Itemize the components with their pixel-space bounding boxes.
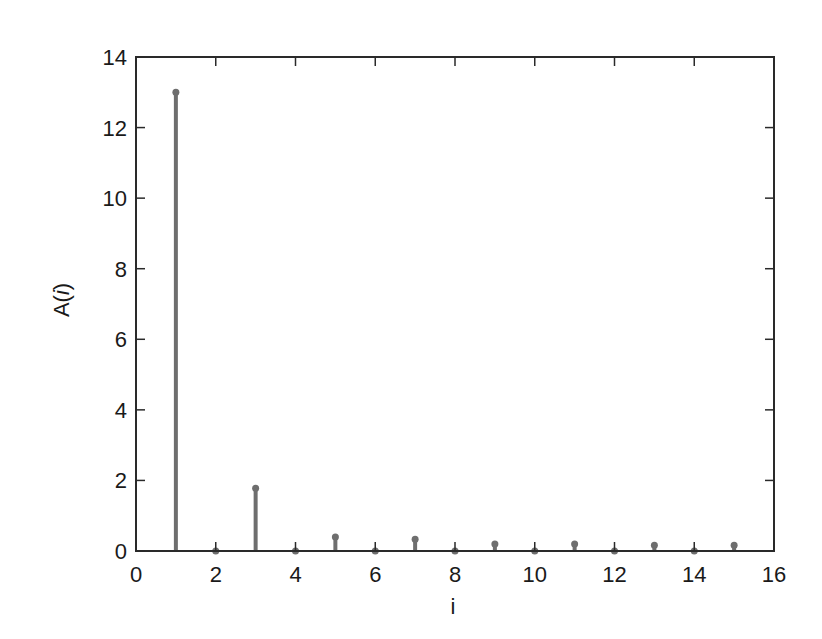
stem-marker — [731, 542, 738, 549]
x-tick-label: 8 — [449, 562, 461, 587]
x-tick-label: 16 — [762, 562, 786, 587]
stem-point — [332, 533, 339, 551]
y-tick-label: 10 — [103, 186, 127, 211]
y-tick-label: 6 — [115, 327, 127, 352]
plot-frame — [136, 57, 774, 551]
x-tick-label: 0 — [130, 562, 142, 587]
x-tick-label: 2 — [210, 562, 222, 587]
stem-marker — [412, 536, 419, 543]
stem-marker — [491, 540, 498, 547]
x-tick-label: 12 — [602, 562, 626, 587]
stem-point — [651, 542, 658, 551]
y-tick-label: 12 — [103, 116, 127, 141]
stem-point — [412, 536, 419, 551]
y-tick-label: 8 — [115, 257, 127, 282]
axis-ticks — [136, 57, 774, 551]
x-axis-label: i — [451, 594, 456, 619]
y-tick-labels: 02468101214 — [103, 45, 127, 564]
y-tick-label: 2 — [115, 468, 127, 493]
y-axis-label: A(i) — [49, 283, 74, 317]
stem-marker — [172, 89, 179, 96]
stem-point — [731, 542, 738, 551]
stem-point — [491, 540, 498, 551]
y-tick-label: 4 — [115, 398, 127, 423]
stem-point — [172, 89, 179, 551]
stem-marker — [252, 485, 259, 492]
x-tick-label: 4 — [289, 562, 301, 587]
x-tick-label: 14 — [682, 562, 706, 587]
stem-marker — [332, 533, 339, 540]
stem-point — [571, 540, 578, 551]
stem-chart: 0246810121416 02468101214 i A(i) — [0, 0, 822, 639]
y-axis-label-text: A(i) — [49, 283, 74, 317]
stem-series — [172, 89, 737, 555]
stem-point — [252, 485, 259, 551]
x-tick-labels: 0246810121416 — [130, 562, 786, 587]
y-tick-label: 14 — [103, 45, 127, 70]
x-tick-label: 10 — [523, 562, 547, 587]
stem-marker — [651, 542, 658, 549]
y-tick-label: 0 — [115, 539, 127, 564]
x-tick-label: 6 — [369, 562, 381, 587]
stem-marker — [571, 540, 578, 547]
